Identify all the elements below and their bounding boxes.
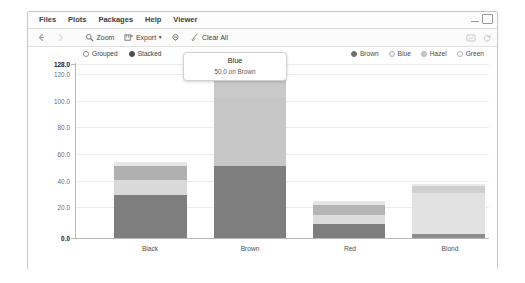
zoom-button[interactable]: Zoom	[82, 32, 117, 43]
clear-all-button-label: Clear All	[202, 33, 228, 42]
minimize-icon[interactable]	[471, 14, 479, 22]
bar-segment-black-blue[interactable]	[114, 180, 186, 195]
maximize-icon[interactable]	[482, 14, 493, 24]
magnifier-icon	[85, 33, 94, 42]
menu-item-packages[interactable]: Packages	[92, 12, 139, 28]
bar-segment-brown-blue[interactable]	[214, 98, 286, 166]
bar-segment-red-brown[interactable]	[313, 224, 385, 238]
menu-item-help[interactable]: Help	[139, 12, 167, 28]
bar-blond[interactable]	[412, 184, 484, 238]
bar-segment-black-hazel[interactable]	[114, 166, 186, 180]
bar-segment-red-green[interactable]	[313, 201, 385, 205]
bar-segment-blond-brown[interactable]	[412, 234, 484, 238]
clear-all-button[interactable]: Clear All	[187, 32, 231, 43]
x-tick-brown: Brown	[241, 245, 260, 252]
y-tick-100: 100.0	[54, 98, 70, 105]
refresh-icon[interactable]	[482, 33, 492, 43]
remove-plot-icon	[171, 33, 180, 42]
export-icon	[124, 33, 133, 42]
bar-segment-black-brown[interactable]	[114, 195, 186, 239]
back-arrow-icon	[37, 33, 46, 42]
forward-arrow-icon	[56, 33, 65, 42]
menu-item-viewer[interactable]: Viewer	[167, 12, 203, 28]
broom-icon	[190, 33, 199, 42]
bar-segment-black-green[interactable]	[114, 162, 186, 166]
bar-segment-red-blue[interactable]	[313, 215, 385, 225]
bar-red[interactable]	[313, 201, 385, 238]
y-axis: 128.0 120.0 100.0 80.0 60.0 40.0 20.0 0.…	[28, 47, 75, 271]
y-tick-0: 0.0	[61, 235, 70, 242]
tooltip-title: Blue	[193, 56, 277, 66]
bar-segment-blond-green[interactable]	[412, 184, 484, 187]
bar-segment-blond-blue[interactable]	[412, 193, 484, 234]
bar-segment-red-hazel[interactable]	[313, 205, 385, 215]
plots-pane-window: Files Plots Packages Help Viewer	[27, 11, 498, 270]
y-tick-40: 40.0	[58, 178, 70, 185]
menu-item-files[interactable]: Files	[33, 12, 62, 28]
publish-icon[interactable]	[466, 33, 476, 43]
menu-item-plots[interactable]: Plots	[62, 12, 92, 28]
remove-plot-button[interactable]	[168, 32, 183, 43]
window-controls	[471, 14, 493, 24]
chevron-down-icon: ▾	[159, 33, 162, 42]
export-button[interactable]: Export ▾	[121, 32, 164, 43]
x-tick-blond: Blond	[442, 245, 459, 252]
y-tick-120: 120.0	[54, 71, 70, 78]
x-tick-black: Black	[142, 245, 158, 252]
zoom-button-label: Zoom	[97, 33, 115, 42]
y-tick-60: 60.0	[58, 151, 70, 158]
toolbar-right-group	[466, 29, 492, 46]
forward-button[interactable]	[53, 32, 68, 43]
y-tick-80: 80.0	[58, 124, 70, 131]
back-button[interactable]	[34, 32, 49, 43]
bar-brown[interactable]	[214, 68, 286, 238]
bar-black[interactable]	[114, 162, 186, 238]
y-tick-128: 128.0	[54, 61, 70, 68]
y-tick-20: 20.0	[58, 204, 70, 211]
menu-bar: Files Plots Packages Help Viewer	[28, 12, 497, 29]
hover-tooltip: Blue 50.0 on Brown	[183, 52, 287, 81]
tooltip-detail: 50.0 on Brown	[193, 67, 277, 76]
export-button-label: Export	[136, 33, 156, 42]
bar-segment-blond-hazel[interactable]	[412, 186, 484, 193]
plots-toolbar: Zoom Export ▾	[28, 29, 497, 47]
x-tick-red: Red	[344, 245, 356, 252]
plot-canvas: Grouped Stacked Brown Blue Hazel	[28, 47, 497, 271]
bar-segment-brown-brown[interactable]	[214, 166, 286, 238]
